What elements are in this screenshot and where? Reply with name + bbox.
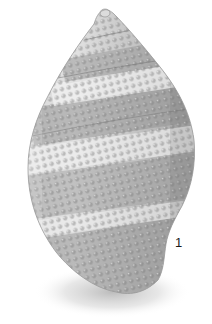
- figure-plate: 1: [0, 0, 212, 324]
- shell-illustration: [0, 0, 212, 324]
- figure-number-label: 1: [175, 236, 182, 249]
